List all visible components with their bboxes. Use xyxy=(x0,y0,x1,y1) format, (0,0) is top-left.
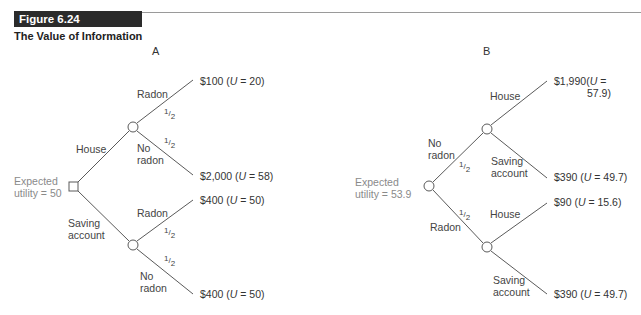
choice-a-saving-line1: Saving xyxy=(68,217,105,229)
choice-b-radon-saving-line1: Saving xyxy=(493,274,530,286)
prob-b-radon: 1/2 xyxy=(459,211,470,219)
payoff-b-noradon-saving: $390 (U = 49.7) xyxy=(554,171,627,183)
decision-node-b-radon xyxy=(482,242,492,252)
choice-b-radon-house: House xyxy=(490,208,520,220)
edge-b-radon xyxy=(433,190,483,243)
event-a-house-noradon: No radon xyxy=(137,142,164,166)
event-a-saving-noradon-line2: radon xyxy=(140,282,167,294)
event-b-radon: Radon xyxy=(430,221,461,233)
chance-node-a-house xyxy=(128,122,138,132)
expected-utility-a-line1: Expected xyxy=(14,175,62,187)
payoff-a-house-noradon: $2,000 (U = 58) xyxy=(200,170,273,182)
choice-b-noradon-saving: Saving account xyxy=(491,155,528,179)
choice-b-noradon-saving-line1: Saving xyxy=(491,155,528,167)
event-a-house-noradon-line2: radon xyxy=(137,154,164,166)
decision-node-b-noradon xyxy=(482,124,492,134)
event-a-house-radon: Radon xyxy=(137,88,168,100)
expected-utility-b: Expected utility = 53.9 xyxy=(355,176,411,200)
decision-tree-graphics xyxy=(0,0,641,315)
payoff-b-noradon-house: $1,990(U = 57.9) xyxy=(554,75,611,99)
payoff-b-noradon-house-utility: 57.9) xyxy=(554,87,611,99)
prob-a-house-noradon: 1/2 xyxy=(164,139,175,147)
chance-node-a-saving xyxy=(128,240,138,250)
prob-b-noradon: 1/2 xyxy=(459,163,470,171)
payoff-a-house-radon: $100 (U = 20) xyxy=(200,75,265,87)
choice-b-radon-saving-line2: account xyxy=(493,286,530,298)
payoff-a-saving-radon: $400 (U = 50) xyxy=(200,194,265,206)
choice-b-noradon-house: House xyxy=(490,90,520,102)
choice-a-saving-line2: account xyxy=(68,229,105,241)
edge-a-house xyxy=(78,131,129,182)
choice-a-house: House xyxy=(76,143,106,155)
figure-caption-clipped xyxy=(14,307,634,315)
event-b-noradon-line1: No xyxy=(428,137,455,149)
event-a-house-noradon-line1: No xyxy=(137,142,164,154)
event-b-noradon-line2: radon xyxy=(428,149,455,161)
prob-a-house-radon: 1/2 xyxy=(164,110,175,118)
expected-utility-b-line1: Expected xyxy=(355,176,411,188)
payoff-b-radon-saving: $390 (U = 49.7) xyxy=(554,288,627,300)
event-b-noradon: No radon xyxy=(428,137,455,161)
payoff-a-saving-noradon: $400 (U = 50) xyxy=(200,288,265,300)
payoff-b-radon-house: $90 (U = 15.6) xyxy=(554,196,621,208)
chance-node-b-root xyxy=(424,181,434,191)
choice-a-saving: Saving account xyxy=(68,217,105,241)
event-a-saving-radon: Radon xyxy=(137,207,168,219)
prob-a-saving-noradon: 1/2 xyxy=(164,257,175,265)
expected-utility-a-line2: utility = 50 xyxy=(14,187,62,199)
expected-utility-a: Expected utility = 50 xyxy=(14,175,62,199)
choice-b-radon-saving: Saving account xyxy=(493,274,530,298)
edge-b-noradon-house xyxy=(491,81,547,125)
event-a-saving-noradon-line1: No xyxy=(140,270,167,282)
choice-b-noradon-saving-line2: account xyxy=(491,167,528,179)
decision-node-a xyxy=(69,182,78,191)
prob-a-saving-radon: 1/2 xyxy=(164,229,175,237)
event-a-saving-noradon: No radon xyxy=(140,270,167,294)
expected-utility-b-line2: utility = 53.9 xyxy=(355,188,411,200)
